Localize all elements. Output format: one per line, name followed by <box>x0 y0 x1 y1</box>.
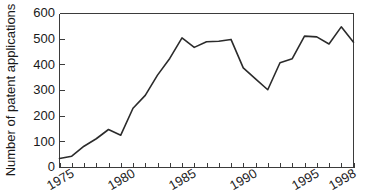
y-tick-label-200: 200 <box>33 108 55 123</box>
y-axis-title: Number of patent applications <box>3 3 18 176</box>
x-tick-label-1995: 1995 <box>289 166 322 193</box>
y-tick-label-100: 100 <box>33 134 55 149</box>
x-tick-label-1980: 1980 <box>105 166 138 193</box>
y-tick-label-400: 400 <box>33 57 55 72</box>
y-tick-labels: 0 100 200 300 400 500 600 <box>33 5 55 174</box>
y-tick-marks <box>60 14 65 168</box>
data-series-line <box>60 27 354 159</box>
y-tick-label-600: 600 <box>33 5 55 20</box>
x-tick-label-1990: 1990 <box>227 166 260 193</box>
y-tick-label-500: 500 <box>33 31 55 46</box>
patent-applications-line-chart: 0 100 200 300 400 500 600 1975 1980 1985… <box>0 0 372 196</box>
x-tick-label-1998: 1998 <box>326 166 359 193</box>
y-tick-label-300: 300 <box>33 82 55 97</box>
x-tick-labels: 1975 1980 1985 1990 1995 1998 <box>44 166 359 193</box>
y-tick-label-0: 0 <box>48 159 55 174</box>
figure-container: 0 100 200 300 400 500 600 1975 1980 1985… <box>0 0 372 196</box>
x-tick-label-1985: 1985 <box>166 166 199 193</box>
